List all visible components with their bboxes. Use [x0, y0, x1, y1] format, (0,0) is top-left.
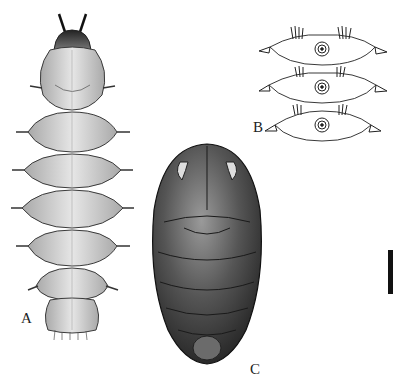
segments-illustration [255, 25, 390, 145]
figure-label-a: A [21, 311, 32, 326]
pupa-illustration [150, 140, 265, 368]
figure-label-c: C [250, 362, 260, 377]
larva-illustration [10, 10, 135, 340]
figure-label-b: B [253, 120, 263, 135]
figure-a-larva [10, 10, 135, 340]
scale-bar [388, 250, 393, 294]
figure-b-segments [255, 25, 390, 145]
figure-c-pupa [150, 140, 265, 368]
